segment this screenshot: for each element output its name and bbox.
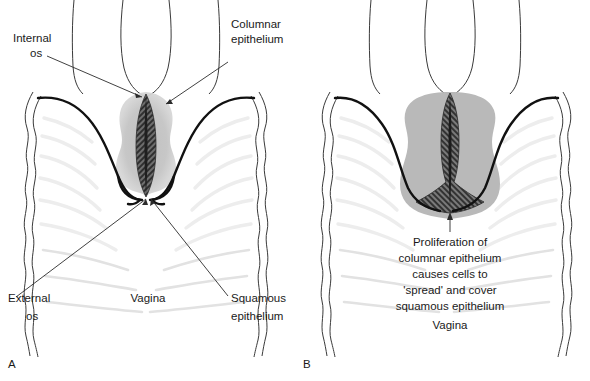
label-vagina-a: Vagina bbox=[131, 292, 167, 304]
figure-container: Internal os Columnar epithelium External… bbox=[0, 0, 590, 381]
label-squamous-epithelium-line1: Squamous bbox=[231, 292, 286, 304]
caption-line-3: causes cells to bbox=[412, 268, 487, 280]
panel-letter-a: A bbox=[8, 358, 16, 370]
panel-letter-b: B bbox=[303, 358, 311, 370]
label-external-os-line2: os bbox=[26, 310, 38, 322]
canvas-background bbox=[0, 0, 590, 381]
caption-line-4: 'spread' and cover bbox=[403, 284, 496, 296]
label-vagina-b: Vagina bbox=[433, 319, 469, 331]
label-internal-os-line2: os bbox=[30, 47, 42, 59]
label-external-os-line1: External bbox=[8, 292, 50, 304]
caption-line-1: Proliferation of bbox=[413, 236, 488, 248]
cervical-ectropion-diagram: Internal os Columnar epithelium External… bbox=[0, 0, 590, 381]
caption-line-5: squamous epithelium bbox=[396, 300, 505, 312]
label-internal-os-line1: Internal bbox=[13, 32, 51, 44]
label-columnar-epithelium-line2: epithelium bbox=[231, 33, 283, 45]
caption-line-2: columnar epithelium bbox=[399, 252, 502, 264]
label-columnar-epithelium-line1: Columnar bbox=[231, 18, 281, 30]
label-squamous-epithelium-line2: epithelium bbox=[231, 310, 283, 322]
